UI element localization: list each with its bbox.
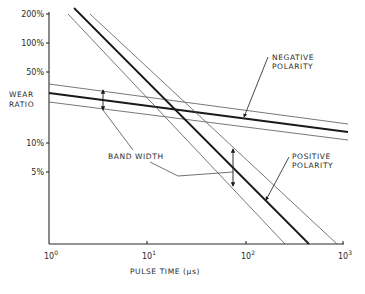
y-tick-10: 10% <box>26 139 44 148</box>
x-tick-1e0: 100 <box>44 249 58 261</box>
x-axis-label: PULSE TIME (µs) <box>130 267 200 276</box>
negative-polarity-series <box>49 84 348 140</box>
x-tick-1e1: 101 <box>142 249 156 261</box>
x-tick-labels: 100 101 102 103 <box>44 249 352 261</box>
negative-polarity-line <box>49 93 348 132</box>
positive-lower-band-line <box>68 14 285 244</box>
y-tick-200: 200% <box>21 10 44 19</box>
negative-polarity-label-line2: POLARITY <box>272 62 313 71</box>
y-axis-label-line2: RATIO <box>9 100 34 109</box>
x-tick-1e3: 103 <box>338 249 352 261</box>
positive-upper-band-line <box>90 14 337 244</box>
band-width-label: BAND WIDTH <box>108 152 164 161</box>
positive-polarity-line <box>74 8 309 244</box>
y-axis-label-line1: WEAR <box>9 90 34 99</box>
positive-polarity-label-line2: POLARITY <box>292 161 333 170</box>
negative-polarity-pointer <box>244 57 268 117</box>
negative-upper-band-line <box>49 84 348 124</box>
y-tick-50: 50% <box>26 68 44 77</box>
x-tick-1e2: 102 <box>241 249 255 261</box>
wear-ratio-chart: 200% 100% 50% 10% 5% 100 101 102 103 WEA… <box>0 0 365 294</box>
positive-polarity-label-line1: POSITIVE <box>292 152 331 161</box>
positive-polarity-pointer <box>266 157 289 200</box>
band-width-arrows <box>103 90 233 186</box>
y-tick-100: 100% <box>21 39 44 48</box>
negative-polarity-label-line1: NEGATIVE <box>272 53 314 62</box>
y-tick-5: 5% <box>31 168 44 177</box>
